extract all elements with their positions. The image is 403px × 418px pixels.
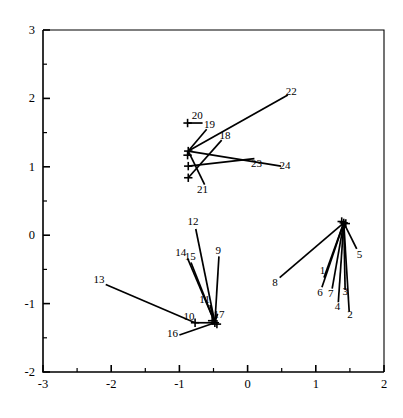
point-label-8: 8	[272, 276, 278, 288]
x-axis-label--2: -2	[106, 377, 116, 391]
y-axis-label-2: 2	[29, 91, 35, 105]
y-axis-label-0: 0	[29, 228, 35, 242]
y-axis-label--2: -2	[25, 365, 35, 379]
x-axis-label-2: 2	[381, 377, 387, 391]
data-point-labels: 123456789101112131415161718192021222324	[93, 85, 362, 339]
point-label-24: 24	[280, 159, 292, 171]
vector-line-16	[179, 323, 214, 335]
point-label-6: 6	[317, 286, 323, 298]
point-label-20: 20	[192, 109, 204, 121]
vector-line-19	[188, 129, 206, 151]
vector-line-13	[106, 284, 195, 322]
x-axis-label-1: 1	[313, 377, 319, 391]
point-label-19: 19	[204, 118, 216, 130]
point-label-13: 13	[93, 273, 105, 285]
x-axis-label-0: 0	[244, 377, 250, 391]
point-label-11: 11	[199, 293, 210, 305]
point-label-17: 17	[213, 308, 225, 320]
point-label-16: 16	[167, 327, 179, 339]
vector-line-21	[188, 151, 204, 185]
scatter-plot-figure: 123456789101112131415161718192021222324 …	[0, 0, 403, 418]
point-label-23: 23	[251, 157, 263, 169]
point-label-2: 2	[347, 308, 353, 320]
point-label-4: 4	[335, 300, 341, 312]
point-label-18: 18	[220, 129, 232, 141]
vector-line-12	[196, 229, 215, 323]
axis-tick-labels: -3-2-1012-2-10123	[25, 23, 388, 391]
point-label-12: 12	[188, 215, 199, 227]
point-label-3: 3	[342, 285, 348, 297]
plot-canvas: 123456789101112131415161718192021222324 …	[0, 0, 403, 418]
y-axis-label-1: 1	[29, 160, 35, 174]
y-axis-label-3: 3	[29, 23, 35, 37]
x-axis-label--3: -3	[38, 377, 48, 391]
point-label-9: 9	[216, 244, 222, 256]
y-axis-label--1: -1	[25, 297, 35, 311]
point-label-10: 10	[183, 310, 195, 322]
point-label-22: 22	[286, 85, 297, 97]
point-label-1: 1	[320, 264, 326, 276]
x-axis-label--1: -1	[174, 377, 184, 391]
point-label-15: 15	[185, 250, 197, 262]
vector-lines	[106, 95, 357, 335]
point-label-7: 7	[328, 287, 334, 299]
point-label-5: 5	[357, 248, 363, 260]
point-label-21: 21	[197, 183, 208, 195]
